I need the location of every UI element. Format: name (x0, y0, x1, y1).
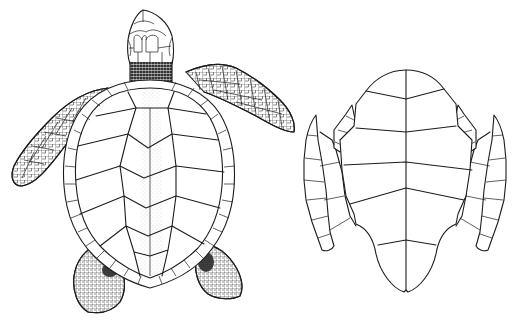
neck-band (130, 62, 172, 82)
dorsal-turtle (12, 10, 294, 313)
head (128, 10, 174, 64)
ventral-turtle (304, 70, 506, 292)
turtle-illustrations (0, 0, 516, 320)
vertebral-stipple (140, 88, 164, 280)
